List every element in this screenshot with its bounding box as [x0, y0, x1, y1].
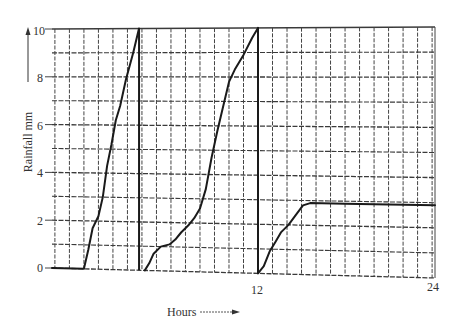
y-tick-2: 2: [37, 214, 43, 228]
y-axis-title-group: Rainfall mm: [21, 27, 35, 172]
y-tick-4: 4: [37, 166, 43, 180]
x-axis-title-group: Hours: [167, 305, 240, 319]
rainfall-chart: 0 2 4 6 8 10 12 24 Rainfall mm Hours: [0, 0, 458, 332]
y-axis-title: Rainfall mm: [21, 111, 35, 172]
x-tick-24: 24: [427, 280, 439, 294]
arrow-right-icon: [232, 310, 240, 315]
y-tick-0: 0: [37, 261, 43, 275]
x-tick-12: 12: [251, 283, 263, 297]
y-tick-6: 6: [37, 119, 43, 133]
x-axis-title: Hours: [167, 305, 197, 319]
x-tick-labels: 12 24: [251, 280, 439, 297]
rainfall-trace: [258, 203, 435, 273]
rainfall-trace: [145, 28, 258, 271]
y-tick-8: 8: [37, 71, 43, 85]
arrow-up-icon: [26, 27, 31, 35]
chart-grid: [45, 27, 435, 278]
y-tick-10: 10: [33, 24, 45, 38]
